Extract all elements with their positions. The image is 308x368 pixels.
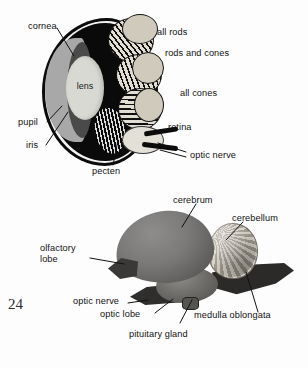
cerebellum-shading — [208, 223, 256, 277]
label-rods-and-cones: rods and cones — [165, 48, 229, 59]
label-optic-nerve-brain: optic nerve — [73, 296, 119, 307]
pituitary-gland-shape — [182, 297, 199, 310]
label-iris: iris — [26, 140, 38, 151]
label-cornea: cornea — [28, 21, 57, 32]
label-optic-nerve-eye: optic nerve — [190, 150, 236, 161]
retina-cap-all-cones — [134, 88, 164, 122]
label-pecten: pecten — [92, 166, 120, 177]
lens-inline-label: lens — [66, 81, 104, 91]
label-cerebellum: cerebellum — [232, 213, 278, 224]
label-retina: retina — [168, 122, 192, 133]
label-all-rods: all rods — [157, 27, 187, 38]
label-olfactory-lobe: olfactory lobe — [40, 243, 76, 264]
retina-cap-rods-and-cones — [132, 52, 164, 84]
textbook-page: lens — [0, 0, 308, 368]
page-number: 24 — [8, 296, 23, 313]
retina-cap-all-rods — [122, 14, 158, 44]
label-medulla-oblongata: medulla oblongata — [194, 310, 271, 321]
label-optic-lobe: optic lobe — [100, 309, 140, 320]
label-cerebrum: cerebrum — [173, 195, 213, 206]
label-all-cones: all cones — [180, 88, 217, 99]
label-pupil: pupil — [18, 117, 38, 128]
label-pituitary-gland: pituitary gland — [129, 329, 188, 340]
